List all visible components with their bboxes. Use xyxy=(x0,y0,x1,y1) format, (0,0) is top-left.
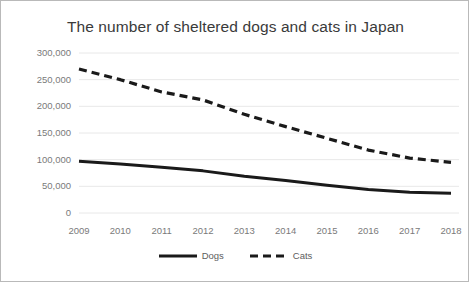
x-axis-tick-label: 2012 xyxy=(186,225,220,236)
x-axis-tick-label: 2018 xyxy=(434,225,468,236)
x-axis-tick-label: 2017 xyxy=(393,225,427,236)
x-axis-tick-label: 2013 xyxy=(227,225,261,236)
x-axis-tick-label: 2009 xyxy=(62,225,96,236)
y-axis-tick-label: 150,000 xyxy=(15,127,71,138)
y-axis-tick-label: 100,000 xyxy=(15,154,71,165)
legend-item-cats[interactable]: Cats xyxy=(250,250,313,261)
gridlines xyxy=(79,53,459,213)
series-line-dogs xyxy=(79,161,451,193)
x-axis-tick-label: 2011 xyxy=(145,225,179,236)
x-axis-tick-label: 2014 xyxy=(269,225,303,236)
legend-label: Cats xyxy=(293,250,313,261)
x-axis-tick-label: 2015 xyxy=(310,225,344,236)
y-axis-tick-label: 50,000 xyxy=(15,180,71,191)
y-axis-tick-label: 200,000 xyxy=(15,100,71,111)
y-axis-tick-label: 250,000 xyxy=(15,74,71,85)
chart-container: The number of sheltered dogs and cats in… xyxy=(0,0,469,282)
legend-swatch-dogs-icon xyxy=(159,251,197,261)
y-axis-tick-label: 300,000 xyxy=(15,47,71,58)
series-lines xyxy=(79,69,451,193)
x-axis-tick-label: 2010 xyxy=(103,225,137,236)
series-line-cats xyxy=(79,69,451,162)
legend-item-dogs[interactable]: Dogs xyxy=(159,250,224,261)
legend-label: Dogs xyxy=(202,250,224,261)
plot-area xyxy=(1,1,469,282)
x-axis-tick-label: 2016 xyxy=(351,225,385,236)
y-axis-tick-label: 0 xyxy=(15,207,71,218)
legend-swatch-cats-icon xyxy=(250,251,288,261)
chart-legend: DogsCats xyxy=(1,250,469,261)
